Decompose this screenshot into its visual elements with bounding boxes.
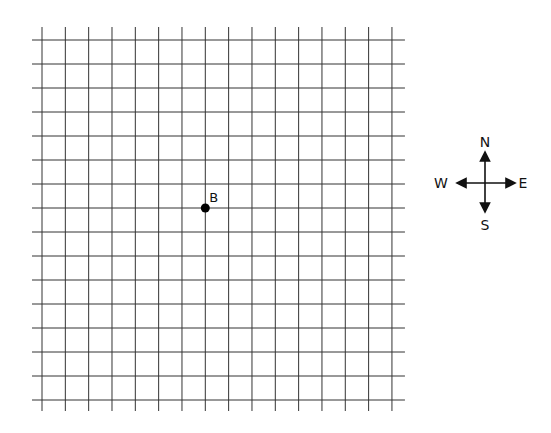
compass-east-label: E xyxy=(519,175,528,191)
point-b: B xyxy=(201,190,218,213)
compass-arrows-icon xyxy=(457,152,515,212)
compass-south-label: S xyxy=(481,217,490,233)
grid xyxy=(32,27,405,411)
compass-rose: N S W E xyxy=(434,134,527,233)
diagram-canvas: B N S W E xyxy=(0,0,551,433)
compass-west-label: W xyxy=(434,175,448,191)
point-label: B xyxy=(209,190,218,205)
compass-north-label: N xyxy=(480,134,490,150)
